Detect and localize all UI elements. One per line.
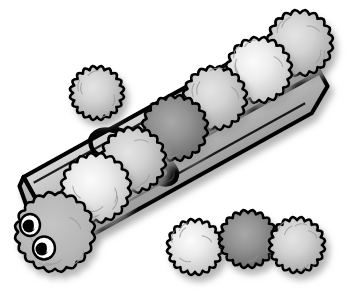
- clothespin-pompom-illustration: clothespin-with-pompoms-illustration Gra…: [0, 0, 359, 296]
- loose-pompom-upper-left[interactable]: [70, 66, 124, 120]
- left-eye: [20, 214, 40, 236]
- loose-pompom-right[interactable]: [269, 217, 325, 273]
- illustration-canvas: clothespin-with-pompoms-illustration Gra…: [0, 0, 359, 296]
- loose-pompom-left[interactable]: [167, 219, 223, 275]
- pompom-body: [167, 219, 223, 275]
- pompom-fuzzy-outline: [167, 219, 223, 275]
- pompom-body: [70, 66, 124, 120]
- right-eye: [33, 237, 55, 260]
- pompom-body: [269, 217, 325, 273]
- head-pompom-with-eyes[interactable]: [15, 192, 95, 272]
- pompom-fuzzy-outline: [70, 66, 124, 120]
